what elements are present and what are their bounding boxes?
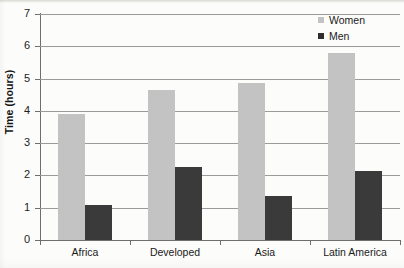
y-axis-tick-label: 4 <box>4 105 30 116</box>
plot-area <box>40 14 400 240</box>
x-axis-tick <box>400 240 401 245</box>
x-axis-label-latin-america: Latin America <box>310 247 400 259</box>
legend-label-men: Men <box>329 31 349 42</box>
bar-women-developed <box>148 90 175 240</box>
x-axis-label-asia: Asia <box>220 247 310 259</box>
y-axis-tick-label: 2 <box>4 169 30 180</box>
y-axis-tick-label: 1 <box>4 202 30 213</box>
legend-item-women: Women <box>318 14 365 26</box>
x-axis-tick <box>40 240 41 245</box>
legend: Women Men <box>318 14 365 46</box>
y-axis-tick-label: 7 <box>4 8 30 19</box>
bar-women-latin-america <box>328 53 355 240</box>
y-axis-tick-label: 0 <box>4 234 30 245</box>
x-axis-tick <box>310 240 311 245</box>
legend-swatch-women-icon <box>318 17 324 23</box>
bar-men-latin-america <box>355 171 382 240</box>
legend-item-men: Men <box>318 30 365 42</box>
bar-men-developed <box>175 167 202 240</box>
scan-edge <box>0 0 404 3</box>
y-axis-tick-label: 3 <box>4 137 30 148</box>
gridline <box>40 46 400 47</box>
x-axis-tick <box>220 240 221 245</box>
bar-chart: Time (hours) 01234567 AfricaDevelopedAsi… <box>0 0 404 268</box>
x-axis-label-developed: Developed <box>130 247 220 259</box>
y-axis-tick-label: 5 <box>4 73 30 84</box>
x-axis-label-africa: Africa <box>40 247 130 259</box>
x-axis-tick <box>130 240 131 245</box>
bar-women-africa <box>58 114 85 240</box>
bar-men-asia <box>265 196 292 240</box>
legend-label-women: Women <box>329 15 365 26</box>
bar-men-africa <box>85 205 112 241</box>
bar-women-asia <box>238 83 265 240</box>
legend-swatch-men-icon <box>318 33 324 39</box>
y-axis-tick-label: 6 <box>4 40 30 51</box>
